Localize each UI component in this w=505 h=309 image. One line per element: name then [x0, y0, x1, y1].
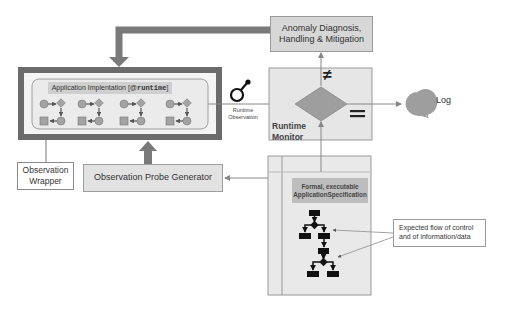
expected-flow-callout: Expected flow of control and of informat…	[393, 219, 486, 247]
spec-line2: ApplicationSpecification	[293, 191, 366, 199]
feedback-arrow	[109, 30, 270, 67]
callout-line1: Expected flow of control	[399, 224, 473, 233]
observation-wrapper-box: Observation Wrapper	[17, 162, 74, 190]
probe-generator-label: Observation Probe Generator	[94, 172, 212, 183]
specification-title: Formal, executable ApplicationSpecificat…	[292, 178, 368, 203]
runtime-obs-line2: Observation	[223, 114, 263, 121]
callout-line2: and of information/data	[399, 233, 473, 242]
app-title-prefix: Application Implentation [@	[52, 84, 137, 93]
app-title-code: runtime	[137, 84, 166, 93]
runtime-monitor-label: Runtime Monitor	[272, 121, 306, 142]
log-label: Log	[436, 95, 451, 105]
runtime-observation-label: Runtime Observation	[223, 107, 263, 121]
app-title-suffix: ]	[166, 84, 168, 93]
anomaly-diagnosis-box: Anomaly Diagnosis, Handling & Mitigation	[270, 16, 373, 52]
observation-probe-generator-box: Observation Probe Generator	[83, 164, 223, 192]
monitor-line2: Monitor	[272, 132, 306, 143]
diagram-canvas	[0, 0, 505, 309]
probe-injection-arrow	[139, 141, 157, 164]
monitor-line1: Runtime	[272, 121, 306, 132]
app-impl-title: Application Implentation [@runtime]	[48, 82, 172, 94]
not-equal-icon: ≠	[323, 66, 332, 84]
wrapper-line1: Observation	[23, 165, 69, 176]
anomaly-line1: Anomaly Diagnosis,	[279, 23, 364, 34]
spec-line1: Formal, executable	[293, 183, 366, 191]
runtime-obs-line1: Runtime	[223, 107, 263, 114]
magnifier-icon	[231, 79, 251, 101]
wrapper-line2: Wrapper	[23, 176, 69, 187]
anomaly-line2: Handling & Mitigation	[279, 34, 364, 45]
